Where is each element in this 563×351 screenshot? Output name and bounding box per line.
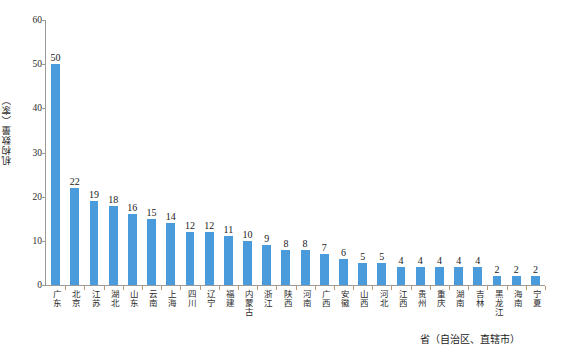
bar-column[interactable]: 14 <box>166 20 175 285</box>
bar-rect[interactable] <box>262 245 271 285</box>
bar-rect[interactable] <box>531 276 540 285</box>
x-axis-tick-mark <box>449 286 450 290</box>
bar-rect[interactable] <box>339 259 348 286</box>
y-axis-tick-label: 10 <box>20 236 42 246</box>
bar-rect[interactable] <box>281 250 290 285</box>
bar-value-label: 18 <box>108 194 118 205</box>
x-axis-category-label: 北京 <box>70 290 79 308</box>
x-axis-title: 省（自治区、直辖市） <box>380 331 560 346</box>
bar-rect[interactable] <box>435 267 444 285</box>
bar-rect[interactable] <box>358 263 367 285</box>
x-axis-tick-mark <box>411 286 412 290</box>
bar-rect[interactable] <box>147 219 156 285</box>
y-axis-tick-mark <box>41 108 45 109</box>
x-axis-tick-mark <box>296 286 297 290</box>
bar-value-label: 2 <box>514 264 519 275</box>
bar-column[interactable]: 4 <box>397 20 406 285</box>
bar-column[interactable]: 12 <box>186 20 195 285</box>
bar-rect[interactable] <box>493 276 502 285</box>
bar-value-label: 5 <box>379 251 384 262</box>
bar-column[interactable]: 12 <box>205 20 214 285</box>
bar-value-label: 4 <box>456 255 461 266</box>
bar-column[interactable]: 19 <box>90 20 99 285</box>
bar-column[interactable]: 22 <box>70 20 79 285</box>
x-axis-category-label: 陕西 <box>281 290 290 308</box>
x-axis-category-label: 四川 <box>185 290 194 308</box>
bar-rect[interactable] <box>70 188 79 285</box>
bar-rect[interactable] <box>90 201 99 285</box>
bar-column[interactable]: 11 <box>224 20 233 285</box>
bar-rect[interactable] <box>473 267 482 285</box>
bar-rect[interactable] <box>512 276 521 285</box>
y-axis-tick-labels: 0102030405060 <box>19 0 42 351</box>
x-axis-tick-mark <box>257 286 258 290</box>
bar-rect[interactable] <box>301 250 310 285</box>
x-axis-category-label: 上海 <box>166 290 175 308</box>
x-axis-tick-mark <box>104 286 105 290</box>
x-axis-tick-mark <box>353 286 354 290</box>
bar-rect[interactable] <box>224 236 233 285</box>
y-axis-tick-mark <box>41 285 45 286</box>
bar-column[interactable]: 4 <box>435 20 444 285</box>
x-axis-category-label: 河南 <box>301 290 310 308</box>
x-axis-tick-mark <box>545 286 546 290</box>
bar-rect[interactable] <box>416 267 425 285</box>
bar-column[interactable]: 7 <box>320 20 329 285</box>
bar-column[interactable]: 9 <box>262 20 271 285</box>
x-axis-tick-mark <box>526 286 527 290</box>
x-axis-category-label: 广东 <box>51 290 60 308</box>
bar-value-label: 2 <box>533 264 538 275</box>
x-axis-category-label: 海南 <box>512 290 521 308</box>
bar-value-label: 4 <box>399 255 404 266</box>
bar-chart: 机构数量（家） 0102030405060 502219181615141212… <box>0 0 563 351</box>
bar-rect[interactable] <box>397 267 406 285</box>
bar-rect[interactable] <box>243 241 252 285</box>
x-axis-tick-mark <box>391 286 392 290</box>
bar-rect[interactable] <box>166 223 175 285</box>
bar-column[interactable]: 10 <box>243 20 252 285</box>
bar-rect[interactable] <box>109 206 118 286</box>
bar-column[interactable]: 6 <box>339 20 348 285</box>
bar-rect[interactable] <box>51 64 60 285</box>
bar-column[interactable]: 50 <box>51 20 60 285</box>
x-axis-tick-mark <box>142 286 143 290</box>
x-axis-tick-mark <box>334 286 335 290</box>
bar-column[interactable]: 4 <box>416 20 425 285</box>
bar-rect[interactable] <box>128 214 137 285</box>
bar-value-label: 10 <box>243 229 253 240</box>
x-axis-category-label: 宁夏 <box>531 290 540 308</box>
bar-rect[interactable] <box>454 267 463 285</box>
x-axis-category-label: 安徽 <box>339 290 348 308</box>
bar-column[interactable]: 15 <box>147 20 156 285</box>
x-axis-tick-mark <box>238 286 239 290</box>
x-axis-tick-mark <box>315 286 316 290</box>
bar-column[interactable]: 4 <box>473 20 482 285</box>
bar-rect[interactable] <box>377 263 386 285</box>
bar-rect[interactable] <box>186 232 195 285</box>
bar-column[interactable]: 4 <box>454 20 463 285</box>
bar-value-label: 7 <box>322 242 327 253</box>
bar-column[interactable]: 2 <box>512 20 521 285</box>
y-axis-tick-label: 60 <box>20 15 42 25</box>
x-axis-tick-mark <box>180 286 181 290</box>
bar-value-label: 50 <box>51 52 61 63</box>
bar-rect[interactable] <box>205 232 214 285</box>
bar-column[interactable]: 2 <box>493 20 502 285</box>
bar-column[interactable]: 8 <box>281 20 290 285</box>
bar-value-label: 6 <box>341 247 346 258</box>
x-axis-tick-mark <box>372 286 373 290</box>
bar-column[interactable]: 5 <box>377 20 386 285</box>
x-axis-category-label: 湖南 <box>454 290 463 308</box>
bar-column[interactable]: 8 <box>301 20 310 285</box>
bar-value-label: 8 <box>303 238 308 249</box>
x-axis-tick-mark <box>219 286 220 290</box>
x-axis-category-label: 湖北 <box>109 290 118 308</box>
bar-column[interactable]: 18 <box>109 20 118 285</box>
bar-column[interactable]: 5 <box>358 20 367 285</box>
x-axis-category-label: 山东 <box>128 290 137 308</box>
bar-column[interactable]: 16 <box>128 20 137 285</box>
x-axis-tick-mark <box>507 286 508 290</box>
bar-rect[interactable] <box>320 254 329 285</box>
bar-column[interactable]: 2 <box>531 20 540 285</box>
bar-value-label: 9 <box>264 233 269 244</box>
